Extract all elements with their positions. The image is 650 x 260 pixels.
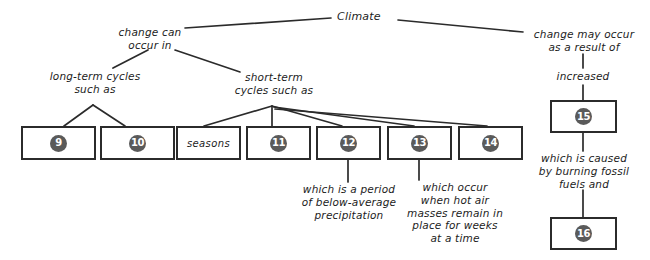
box-seasons-label: seasons — [187, 138, 230, 149]
box-10-number: 10 — [129, 135, 146, 152]
line-shortterm-to-seasons — [204, 106, 272, 126]
line-climate-to-left — [185, 18, 331, 28]
connector-change-can-occur-in: change can occur in — [110, 26, 190, 52]
annotation-box-13: which occur when hot air masses remain i… — [400, 181, 510, 245]
line-shortterm-to-box14 — [275, 109, 487, 126]
line-longterm-to-box9 — [64, 105, 93, 126]
answer-box-16[interactable]: 16 — [550, 217, 617, 250]
line-shortterm-to-box12 — [272, 106, 342, 126]
connector-caused-by-burning: which is caused by burning fossil fuels … — [525, 152, 643, 190]
box-9-number: 9 — [50, 135, 67, 152]
concept-map-diagram: Climate change can occur in change may o… — [0, 0, 650, 260]
answer-box-12[interactable]: 12 — [316, 126, 381, 160]
answer-box-15[interactable]: 15 — [550, 100, 617, 133]
answer-box-14[interactable]: 14 — [458, 126, 523, 160]
line-left-to-shortterm — [175, 50, 240, 72]
answer-box-13[interactable]: 13 — [387, 126, 452, 160]
box-13-number: 13 — [411, 135, 428, 152]
connector-short-term-cycles: short-term cycles such as — [228, 71, 320, 97]
line-left-to-longterm — [113, 50, 148, 68]
connector-long-term-cycles: long-term cycles such as — [40, 70, 150, 96]
box-14-number: 14 — [482, 135, 499, 152]
connector-change-may-occur: change may occur as a result of — [524, 28, 644, 54]
box-16-number: 16 — [575, 225, 592, 242]
root-label: Climate — [337, 10, 381, 23]
box-seasons[interactable]: seasons — [176, 126, 241, 160]
line-longterm-to-box10 — [93, 105, 125, 126]
line-shortterm-to-box13 — [274, 107, 414, 126]
answer-box-11[interactable]: 11 — [246, 126, 311, 160]
box-15-number: 15 — [575, 108, 592, 125]
connector-increased: increased — [548, 70, 618, 83]
box-11-number: 11 — [270, 135, 287, 152]
box-12-number: 12 — [340, 135, 357, 152]
answer-box-10[interactable]: 10 — [100, 126, 175, 160]
answer-box-9[interactable]: 9 — [21, 126, 96, 160]
line-climate-to-right — [398, 20, 523, 32]
